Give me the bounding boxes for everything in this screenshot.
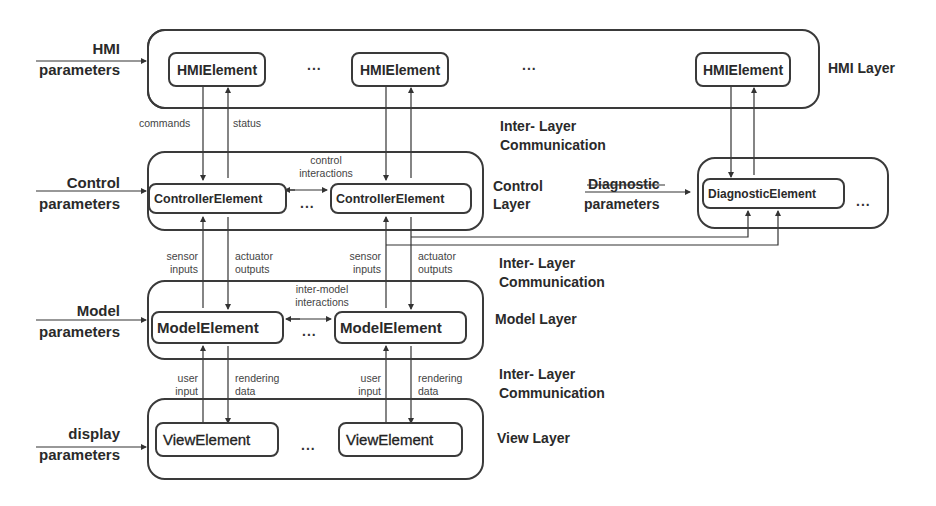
render1-line1: rendering [235, 372, 279, 385]
layered-architecture-diagram: HMI parameters HMIElement ... HMIElement… [0, 0, 936, 506]
view-element-2[interactable]: ViewElement [338, 422, 463, 457]
model-int-line2: interactions [279, 296, 365, 309]
hmi-parameters-label: HMI parameters [20, 38, 120, 80]
controller-element-1[interactable]: ControllerElement [148, 183, 287, 214]
control-layer-line2: Layer [493, 195, 543, 213]
sensor-inputs-label-1: sensor inputs [160, 250, 198, 276]
sensor1-line2: inputs [160, 263, 198, 276]
control-param-line1: Control [20, 172, 120, 193]
render2-line1: rendering [418, 372, 462, 385]
ilc1-line2: Communication [500, 136, 606, 155]
render1-line2: data [235, 385, 279, 398]
model-element-1[interactable]: ModelElement [151, 311, 284, 344]
hmi-param-line1: HMI [20, 38, 120, 59]
diag-param-line2: parameters [584, 194, 694, 214]
sensor2-line2: inputs [343, 263, 381, 276]
display-param-line1: display [20, 423, 120, 444]
hmi-element-1[interactable]: HMIElement [168, 52, 266, 87]
rendering-data-label-1: rendering data [235, 372, 279, 398]
ilc2-line2: Communication [499, 273, 605, 292]
model-element-2[interactable]: ModelElement [334, 311, 467, 344]
model-param-line2: parameters [20, 321, 120, 342]
inter-layer-communication-2: Inter- Layer Communication [499, 254, 605, 292]
control-interactions-label: control interactions [288, 154, 364, 180]
status-label: status [233, 117, 261, 130]
model-ellipsis: ... [302, 323, 317, 339]
model-param-line1: Model [20, 300, 120, 321]
actuator-outputs-label-2: actuator outputs [418, 250, 456, 276]
commands-label: commands [139, 117, 190, 130]
sensor-inputs-label-2: sensor inputs [343, 250, 381, 276]
hmi-layer-label: HMI Layer [828, 59, 895, 77]
view-ellipsis: ... [301, 437, 316, 453]
inter-model-interactions-label: inter-model interactions [279, 283, 365, 309]
user2-line1: user [343, 372, 381, 385]
control-param-line2: parameters [20, 193, 120, 214]
actuator2-line1: actuator [418, 250, 456, 263]
ilc3-line2: Communication [499, 384, 605, 403]
control-layer-line1: Control [493, 177, 543, 195]
ctl-int-line1: control [288, 154, 364, 167]
control-parameters-label: Control parameters [20, 172, 120, 214]
diagnostic-element[interactable]: DiagnosticElement [702, 178, 845, 209]
view-layer-label: View Layer [497, 429, 570, 447]
hmi-ellipsis-2: ... [522, 57, 537, 73]
controller-element-2[interactable]: ControllerElement [330, 183, 472, 214]
diag-param-line1: Diagnostic [584, 174, 694, 194]
sensor2-line1: sensor [343, 250, 381, 263]
ilc1-line1: Inter- Layer [500, 117, 606, 136]
ilc2-line1: Inter- Layer [499, 254, 605, 273]
model-layer-label: Model Layer [495, 310, 577, 328]
diagnostic-parameters-label: Diagnostic parameters [584, 174, 694, 214]
model-parameters-label: Model parameters [20, 300, 120, 342]
ilc3-line1: Inter- Layer [499, 365, 605, 384]
rendering-data-label-2: rendering data [418, 372, 462, 398]
actuator2-line2: outputs [418, 263, 456, 276]
actuator1-line1: actuator [235, 250, 273, 263]
user-input-label-2: user input [343, 372, 381, 398]
user-input-label-1: user input [160, 372, 198, 398]
model-int-line1: inter-model [279, 283, 365, 296]
actuator-outputs-label-1: actuator outputs [235, 250, 273, 276]
render2-line2: data [418, 385, 462, 398]
user1-line2: input [160, 385, 198, 398]
actuator1-line2: outputs [235, 263, 273, 276]
user1-line1: user [160, 372, 198, 385]
display-param-line2: parameters [20, 444, 120, 465]
diagnostic-ellipsis: ... [856, 193, 871, 209]
hmi-element-3[interactable]: HMIElement [695, 52, 791, 87]
inter-layer-communication-1: Inter- Layer Communication [500, 117, 606, 155]
controller-ellipsis: ... [300, 195, 315, 211]
hmi-element-2[interactable]: HMIElement [351, 52, 449, 87]
ctl-int-line2: interactions [288, 167, 364, 180]
inter-layer-communication-3: Inter- Layer Communication [499, 365, 605, 403]
control-layer-label: Control Layer [493, 177, 543, 213]
hmi-param-line2: parameters [20, 59, 120, 80]
display-parameters-label: display parameters [20, 423, 120, 465]
user2-line2: input [343, 385, 381, 398]
sensor1-line1: sensor [160, 250, 198, 263]
hmi-ellipsis-1: ... [307, 57, 322, 73]
view-element-1[interactable]: ViewElement [155, 422, 279, 457]
